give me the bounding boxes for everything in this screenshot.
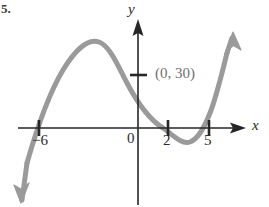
x-intercept-label-5: 5 [204, 133, 212, 148]
y-intercept-annotation: (0, 30) [155, 66, 195, 81]
figure-container: 5. y x 0 −6 2 5 (0, 30) [0, 0, 269, 207]
problem-number: 5. [1, 2, 11, 15]
tick-marks-group [39, 75, 209, 136]
x-axis-label: x [252, 118, 259, 133]
x-intercept-label-neg6: −6 [32, 133, 48, 148]
origin-label: 0 [127, 131, 135, 146]
curve-group [14, 32, 241, 203]
x-intercept-label-2: 2 [163, 133, 171, 148]
y-axis-label: y [128, 2, 135, 17]
cubic-graph-svg [0, 0, 269, 207]
